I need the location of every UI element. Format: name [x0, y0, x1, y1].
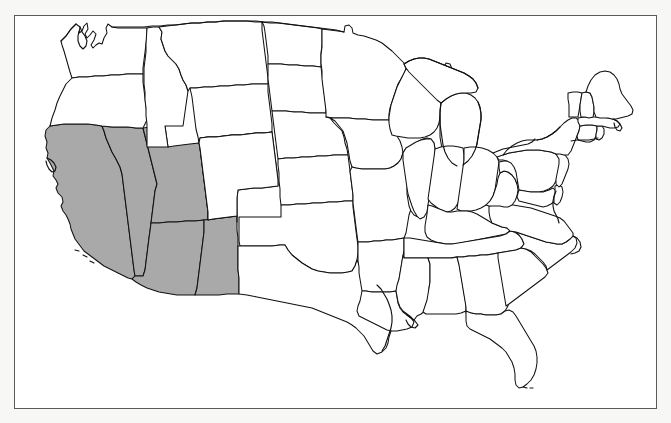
state-kansas[interactable] [278, 155, 353, 205]
state-florida[interactable] [466, 310, 537, 388]
state-washington[interactable] [61, 23, 147, 78]
us-map [0, 0, 671, 423]
state-north-dakota[interactable] [262, 22, 322, 67]
page-root [0, 0, 671, 423]
state-delaware[interactable] [554, 185, 563, 205]
state-new-york[interactable] [503, 118, 580, 155]
state-oregon[interactable] [50, 74, 147, 128]
florida-keys-detail [523, 387, 533, 388]
state-south-dakota[interactable] [268, 64, 326, 113]
state-new-jersey[interactable] [556, 153, 569, 187]
state-colorado-body[interactable] [199, 132, 278, 220]
